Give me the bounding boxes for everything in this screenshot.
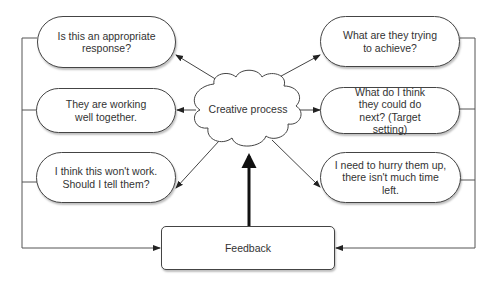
node-label: Is this an appropriate response? [57, 30, 157, 55]
node-label: I think this won't work. Should I tell t… [50, 165, 162, 190]
node-working-well-together: They are working well together. [36, 88, 176, 133]
node-target-setting: What do I think they could do next? (Tar… [320, 87, 460, 134]
node-label: What do I think they could do next? (Tar… [345, 86, 435, 136]
node-wont-work: I think this won't work. Should I tell t… [36, 152, 176, 203]
feedback-label: Feedback [225, 242, 271, 255]
node-label: What are they trying to achieve? [340, 29, 440, 54]
feedback-box: Feedback [161, 226, 335, 270]
creative-process-label: Creative process [196, 103, 300, 115]
node-hurry-them-up: I need to hurry them up, there isn't muc… [320, 152, 461, 203]
node-trying-to-achieve: What are they trying to achieve? [320, 16, 460, 67]
node-label: They are working well together. [59, 98, 154, 123]
node-appropriate-response: Is this an appropriate response? [37, 16, 176, 68]
node-label: I need to hurry them up, there isn't muc… [335, 159, 447, 197]
left-feedback-bus [22, 38, 160, 248]
right-feedback-bus [336, 38, 475, 248]
